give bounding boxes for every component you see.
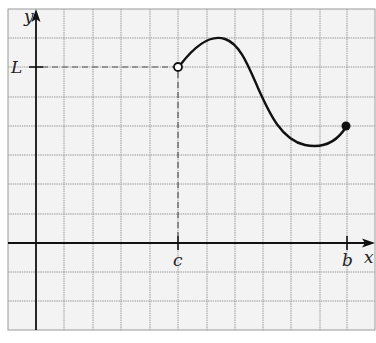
tick-label-L: L bbox=[10, 57, 22, 77]
closed-dot-end-point bbox=[342, 122, 351, 131]
tick-label-c: c bbox=[173, 250, 183, 270]
open-circle-start-point bbox=[174, 63, 182, 71]
y-axis-label: y bbox=[23, 6, 34, 26]
function-graph: y x L c b bbox=[0, 0, 376, 343]
tick-label-b: b bbox=[342, 250, 353, 270]
x-axis-label: x bbox=[364, 247, 374, 267]
